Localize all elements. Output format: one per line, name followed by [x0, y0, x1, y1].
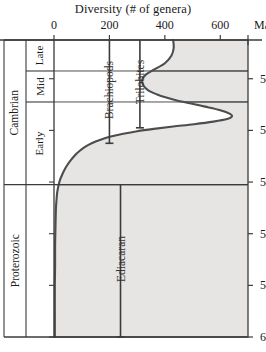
chart-figure: Diversity (# of genera) 0200400600 Ma Ca…	[0, 0, 266, 352]
range-bar-label: Brachiopods	[103, 30, 115, 150]
y-tick-label: 580	[260, 278, 266, 293]
plot-border	[54, 40, 248, 337]
range-bar-label: Ediacaran	[115, 199, 127, 319]
y-tick-label: 600	[260, 330, 266, 345]
y-tick-label: 500	[260, 71, 266, 86]
y-tick-label: 560	[260, 226, 266, 241]
y-tick-label: 540	[260, 175, 266, 190]
axis-frame-graphics	[0, 0, 266, 352]
range-bar-label: Trilobites	[134, 22, 146, 142]
y-tick-label: 520	[260, 123, 266, 138]
